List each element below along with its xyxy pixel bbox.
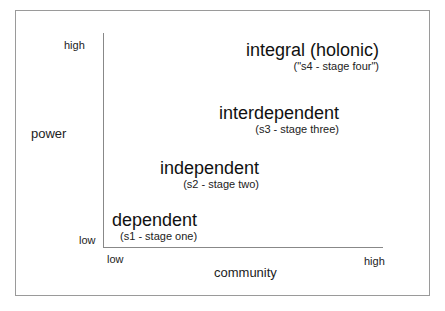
stage-name: interdependent	[219, 103, 339, 123]
stage-name: integral (holonic)	[246, 40, 379, 60]
y-axis-line	[103, 33, 104, 248]
x-axis-line	[103, 247, 383, 248]
stage-independent: independent (s2 - stage two)	[160, 158, 259, 191]
stage-name: dependent	[112, 210, 197, 230]
stage-name: independent	[160, 158, 259, 178]
stage-subtitle: ("s4 - stage four")	[246, 60, 379, 73]
stage-subtitle: (s2 - stage two)	[160, 178, 259, 191]
stage-subtitle: (s1 - stage one)	[112, 230, 197, 243]
stage-dependent: dependent (s1 - stage one)	[112, 210, 197, 243]
stage-subtitle: (s3 - stage three)	[219, 123, 339, 136]
x-axis-high-label: high	[364, 255, 385, 267]
y-axis-low-label: low	[79, 234, 96, 246]
x-axis-title: community	[214, 265, 277, 280]
stage-integral: integral (holonic) ("s4 - stage four")	[246, 40, 379, 73]
x-axis-low-label: low	[107, 253, 124, 265]
y-axis-title: power	[31, 126, 66, 141]
stage-interdependent: interdependent (s3 - stage three)	[219, 103, 339, 136]
y-axis-high-label: high	[64, 39, 85, 51]
